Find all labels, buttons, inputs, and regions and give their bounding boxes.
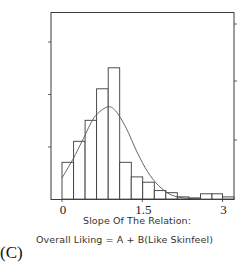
- histogram-bar: [108, 68, 120, 199]
- histogram-bar: [143, 182, 155, 199]
- x-axis-ticks: 01.53: [60, 199, 227, 215]
- histogram-bar: [74, 141, 86, 199]
- x-tick-label: 0: [60, 202, 67, 215]
- histogram-bar: [166, 193, 178, 199]
- histogram-bar: [212, 194, 223, 199]
- x-tick-label: 3: [220, 202, 227, 215]
- x-axis-title-line1: Slope Of The Relation:: [80, 215, 194, 226]
- panel-label: (C): [0, 243, 23, 263]
- histogram-bar: [97, 89, 109, 199]
- histogram-bar: [201, 194, 213, 199]
- x-axis-title-line2: Overall Liking = A + B(Like Skinfeel): [36, 234, 213, 245]
- histogram-chart: 01.53: [0, 0, 244, 215]
- histogram-bars: [62, 68, 234, 199]
- histogram-bar: [223, 197, 235, 199]
- histogram-bar: [120, 162, 132, 199]
- histogram-bar: [131, 177, 143, 199]
- x-tick-label: 1.5: [135, 202, 151, 215]
- histogram-bar: [154, 191, 166, 199]
